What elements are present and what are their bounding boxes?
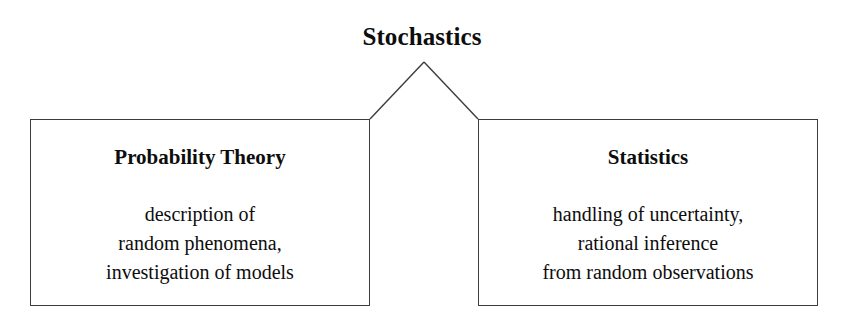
node-box-statistics: Statistics handling of uncertainty, rati… [478, 119, 818, 306]
connector-right-leg [424, 62, 478, 119]
root-node-label-text: Stochastics [362, 23, 481, 50]
node-body-line: handling of uncertainty, [479, 200, 817, 229]
node-body-line: description of [31, 200, 369, 229]
diagram-canvas: Stochastics Probability Theory descripti… [0, 0, 846, 323]
node-title-statistics: Statistics [479, 144, 817, 170]
node-body-line: rational inference [479, 229, 817, 258]
root-node-label: Stochastics [0, 22, 846, 52]
node-body-statistics: handling of uncertainty, rational infere… [479, 200, 817, 287]
node-title-probability-theory: Probability Theory [31, 144, 369, 170]
node-box-probability-theory: Probability Theory description of random… [30, 119, 370, 306]
node-body-line: investigation of models [31, 258, 369, 287]
node-body-probability-theory: description of random phenomena, investi… [31, 200, 369, 287]
node-body-line: from random observations [479, 258, 817, 287]
connector-left-leg [370, 62, 424, 119]
node-body-line: random phenomena, [31, 229, 369, 258]
